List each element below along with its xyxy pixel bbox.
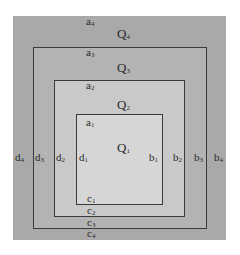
label-d2: d2 [56,152,65,166]
label-a2: a2 [86,80,94,94]
label-b4: b4 [214,152,223,166]
label-q2: Q2 [117,98,130,115]
label-c4: c4 [87,228,95,242]
label-a1: a1 [86,117,94,131]
label-q1: Q1 [117,141,130,158]
label-a4: a4 [86,16,94,30]
label-b2: b2 [173,152,182,166]
label-q4: Q4 [117,27,130,44]
label-d4: d4 [15,152,24,166]
label-b1: b1 [149,152,158,166]
label-q3: Q3 [117,61,130,78]
label-d1: d1 [79,152,88,166]
label-a3: a3 [86,47,94,61]
label-d3: d3 [35,152,44,166]
label-b3: b3 [194,152,203,166]
